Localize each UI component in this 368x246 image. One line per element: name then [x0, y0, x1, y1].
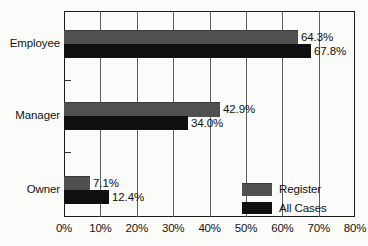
bar-owner-all-cases: [64, 190, 109, 204]
xtick-label-0: 0%: [56, 222, 72, 234]
bar-label-owner-all-cases: 12.4%: [112, 190, 144, 204]
legend-label-all-cases: All Cases: [279, 201, 327, 216]
xtick-label-60: 60%: [271, 222, 293, 234]
xtick-label-10: 10%: [89, 222, 111, 234]
legend-swatch-all-cases: [242, 202, 272, 214]
category-label-manager: Manager: [0, 109, 60, 121]
bar-label-owner-register: 7.1%: [93, 176, 119, 190]
axis-minor-tick-1: [64, 80, 71, 81]
xtick-label-30: 30%: [162, 222, 184, 234]
bar-owner-register: [64, 176, 90, 191]
bar-manager-register: [64, 102, 220, 117]
bar-label-manager-all-cases: 34.0%: [191, 116, 223, 130]
bar-label-employee-all-cases: 67.8%: [314, 44, 346, 58]
xtick-label-50: 50%: [235, 222, 257, 234]
legend-swatch-register: [242, 183, 272, 196]
bar-employee-register: [64, 30, 298, 45]
xtick-label-80: 80%: [344, 222, 366, 234]
xtick-label-40: 40%: [198, 222, 220, 234]
bar-label-manager-register: 42.9%: [223, 102, 255, 116]
bar-employee-all-cases: [64, 44, 311, 58]
xtick-label-70: 70%: [308, 222, 330, 234]
xtick-label-20: 20%: [126, 222, 148, 234]
bar-chart-figure: 64.3% 67.8% Employee 42.9% 34.0% Manager…: [0, 0, 368, 246]
axis-minor-tick-2: [64, 152, 71, 153]
category-label-owner: Owner: [0, 183, 60, 195]
legend-label-register: Register: [279, 182, 321, 197]
bar-label-employee-register: 64.3%: [301, 30, 333, 44]
category-label-employee: Employee: [0, 37, 60, 49]
bar-manager-all-cases: [64, 116, 188, 130]
